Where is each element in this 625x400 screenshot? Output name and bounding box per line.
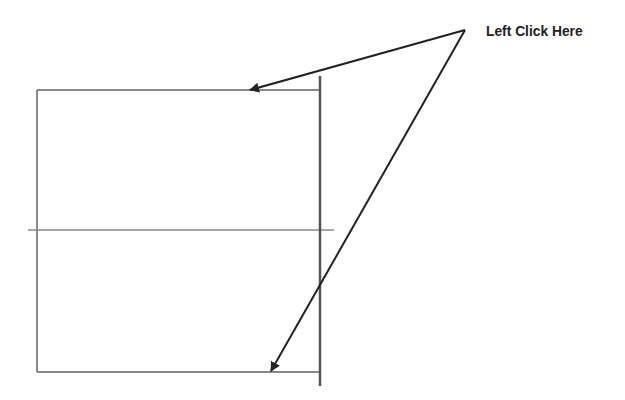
rectangle-outline: [37, 90, 320, 372]
diagram-canvas: [0, 0, 625, 400]
arrow-to-bottom-edge: [271, 30, 465, 371]
arrow-to-top-edge: [250, 30, 465, 90]
annotation-label: Left Click Here: [486, 22, 583, 39]
